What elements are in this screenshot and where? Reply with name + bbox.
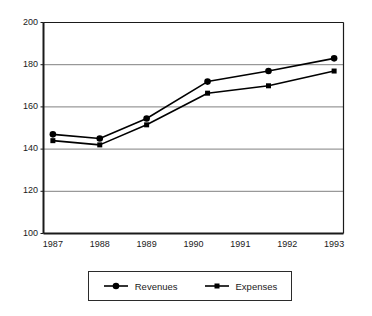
data-point-revenues	[143, 115, 150, 122]
series-line-revenues	[53, 58, 334, 138]
data-point-revenues	[331, 55, 338, 62]
legend-circle-marker-icon	[103, 280, 129, 292]
data-point-expenses	[50, 138, 55, 143]
x-tick-label: 1989	[127, 239, 167, 249]
data-point-revenues	[96, 135, 103, 142]
x-tick-label: 1987	[33, 239, 73, 249]
data-point-expenses	[205, 91, 210, 96]
legend-label: Expenses	[236, 281, 278, 292]
data-point-expenses	[144, 122, 149, 127]
series-line-expenses	[53, 71, 334, 145]
data-point-expenses	[266, 83, 271, 88]
x-tick-label: 1990	[174, 239, 214, 249]
data-point-expenses	[97, 142, 102, 147]
legend-entry-expenses[interactable]: Expenses	[204, 280, 278, 292]
y-tick-label: 160	[8, 101, 38, 111]
data-point-expenses	[332, 69, 337, 74]
legend-marker	[214, 284, 219, 289]
data-point-revenues	[204, 78, 211, 85]
y-tick-label: 140	[8, 143, 38, 153]
data-point-revenues	[50, 131, 57, 138]
y-tick-label: 120	[8, 185, 38, 195]
chart-legend: RevenuesExpenses	[88, 271, 292, 301]
legend-label: Revenues	[135, 281, 178, 292]
legend-square-marker-icon	[204, 280, 230, 292]
legend-entry-revenues[interactable]: Revenues	[103, 280, 178, 292]
x-tick-label: 1988	[80, 239, 120, 249]
data-point-revenues	[265, 68, 272, 75]
line-chart: 100120140160180200 198719881989199019911…	[0, 0, 372, 316]
x-tick-label: 1991	[220, 239, 260, 249]
x-tick-label: 1992	[267, 239, 307, 249]
chart-plot-area	[0, 0, 372, 316]
legend-marker	[112, 283, 119, 290]
y-tick-label: 200	[8, 17, 38, 27]
y-tick-label: 100	[8, 228, 38, 238]
y-tick-label: 180	[8, 59, 38, 69]
x-tick-label: 1993	[314, 239, 354, 249]
